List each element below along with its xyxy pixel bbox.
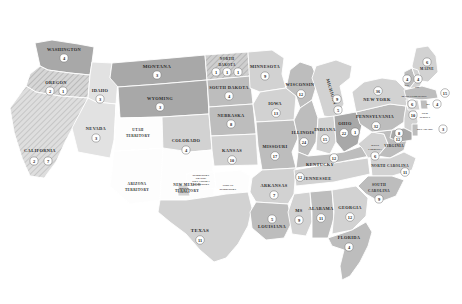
badge-alabama[interactable]: 11 (317, 214, 326, 223)
badge-north-dakota-2[interactable]: 1 (223, 68, 231, 76)
svg-text:10: 10 (411, 113, 416, 118)
badge-rhode-island[interactable]: 4 (433, 100, 441, 108)
state-shape-south-dakota[interactable] (207, 76, 253, 107)
label-florida: FLORIDA (338, 235, 361, 240)
badge-north-dakota-1[interactable]: 1 (212, 68, 220, 76)
badge-michigan-1[interactable]: 9 (333, 95, 341, 103)
badge-west-virginia[interactable]: 6 (371, 152, 379, 160)
badge-ohio-2[interactable]: 1 (351, 128, 359, 136)
label-montana: MONTANA (143, 64, 172, 69)
badge-new-york[interactable]: 36 (374, 87, 383, 96)
label-illinois: ILLINOIS (292, 130, 315, 135)
svg-text:32: 32 (374, 124, 378, 129)
label-greer-line1: GREER (179, 187, 189, 190)
label-ohio: OHIO (338, 121, 352, 126)
label-georgia: GEORGIA (338, 205, 362, 210)
badge-illinois[interactable]: 24 (300, 138, 309, 147)
label-kentucky: KENTUCKY (306, 162, 335, 167)
badge-nebraska[interactable]: 8 (227, 120, 235, 128)
badge-georgia[interactable]: 12 (346, 213, 355, 222)
badge-ohio-1[interactable]: 22 (340, 129, 349, 138)
label-north-carolina: NORTH CAROLINA (371, 164, 409, 168)
badge-kansas[interactable]: 10 (228, 156, 237, 165)
badge-indiana[interactable]: 15 (321, 135, 330, 144)
label-pennsylvania: PENNSYLVANIA (356, 114, 395, 119)
badge-tennessee[interactable]: 12 (296, 173, 305, 182)
badge-oregon-1[interactable]: 2 (46, 87, 54, 95)
badge-wyoming[interactable]: 3 (156, 103, 164, 111)
svg-text:12: 12 (332, 156, 336, 161)
badge-oregon-2[interactable]: 1 (59, 87, 67, 95)
label-wyoming: WYOMING (147, 96, 173, 101)
badge-california-2[interactable]: 7 (44, 157, 52, 165)
label-arkansas: ARKANSAS (261, 183, 288, 188)
label-wv-line1: WEST (371, 144, 379, 147)
badge-louisiana[interactable]: 5 (268, 215, 276, 223)
badge-mississippi[interactable]: 9 (295, 216, 303, 224)
badge-washington[interactable]: 4 (60, 54, 68, 62)
badge-south-dakota[interactable]: 4 (225, 92, 233, 100)
badge-nevada[interactable]: 3 (92, 134, 100, 142)
badge-iowa[interactable]: 13 (272, 109, 281, 118)
svg-text:13: 13 (274, 111, 278, 116)
label-delaware: DELAWARE (417, 128, 433, 131)
label-idaho: IDAHO (92, 88, 109, 93)
badge-north-carolina[interactable]: 11 (401, 168, 410, 177)
label-tennessee: TENNESSEE (302, 176, 331, 181)
state-shape-minnesota[interactable] (248, 50, 286, 92)
badge-maryland[interactable]: 8 (395, 129, 403, 137)
badge-arkansas[interactable]: 7 (270, 191, 278, 199)
badge-north-dakota-3[interactable]: 1 (234, 68, 242, 76)
label-indiana: INDIANA (314, 127, 336, 132)
label-iowa: IOWA (268, 101, 282, 106)
badge-florida[interactable]: 4 (345, 243, 353, 251)
badge-wisconsin[interactable]: 12 (297, 90, 306, 99)
label-nj-line1: NEW (422, 112, 429, 115)
svg-text:12: 12 (348, 215, 352, 220)
badge-maine[interactable]: 6 (423, 58, 431, 66)
badge-kentucky[interactable]: 12 (330, 154, 339, 163)
label-minnesota: MINNESOTA (250, 64, 280, 69)
state-shape-arizona-territory[interactable] (110, 148, 163, 204)
badge-california-1[interactable]: 2 (30, 157, 38, 165)
label-arizona-line1: ARIZONA (128, 182, 147, 186)
label-washington: WASHINGTON (47, 47, 82, 52)
label-missouri: MISSOURI (262, 144, 287, 149)
badge-idaho[interactable]: 3 (96, 95, 104, 103)
us-map-svg: WASHINGTON OREGON IDAHO MONTANA NORTH NO… (0, 0, 462, 304)
svg-text:10: 10 (230, 158, 234, 163)
badge-minnesota[interactable]: 9 (261, 72, 269, 80)
badge-pennsylvania[interactable]: 32 (372, 122, 381, 131)
svg-text:12: 12 (299, 92, 303, 97)
badge-massachusetts[interactable]: 15 (441, 89, 450, 98)
badge-vermont[interactable]: 4 (403, 75, 411, 83)
badge-michigan-2[interactable]: 5 (334, 106, 342, 114)
badge-delaware[interactable]: 3 (439, 125, 447, 133)
label-mississippi: MS (295, 208, 302, 213)
label-colorado: COLORADO (172, 138, 201, 143)
label-oregon: OREGON (45, 80, 67, 85)
badge-texas[interactable]: 11 (196, 236, 205, 245)
us-map-container: WASHINGTON OREGON IDAHO MONTANA NORTH NO… (0, 0, 462, 304)
badge-south-carolina[interactable]: 9 (375, 195, 383, 203)
svg-text:22: 22 (342, 131, 346, 136)
label-nj-line2: JERSEY (420, 116, 431, 119)
badge-montana[interactable]: 3 (153, 71, 161, 79)
badge-new-jersey[interactable]: 10 (409, 111, 417, 119)
label-massachusetts: MASSACHUSETTS (401, 95, 426, 98)
badge-connecticut[interactable]: 6 (408, 100, 416, 108)
label-texas: TEXAS (191, 228, 209, 233)
badge-colorado[interactable]: 4 (182, 146, 190, 154)
label-north-dakota-line2: DAKOTA (218, 63, 235, 67)
badge-missouri[interactable]: 17 (271, 152, 280, 161)
label-wv-line2: VIRGINIA (368, 148, 382, 151)
label-alabama: ALABAMA (308, 206, 334, 211)
label-vermont: VT (405, 84, 409, 87)
label-nevada: NEVADA (86, 126, 107, 131)
badge-new-hampshire[interactable]: 4 (414, 75, 422, 83)
label-maine: MAINE (420, 67, 434, 71)
label-kansas: KANSAS (222, 148, 242, 153)
label-new-york: NEW YORK (363, 97, 391, 102)
state-shape-texas[interactable] (158, 192, 252, 262)
label-it-line1: INDIAN (223, 184, 233, 187)
